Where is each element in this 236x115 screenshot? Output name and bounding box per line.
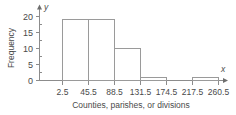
x-tick-label: 2.5 bbox=[57, 87, 69, 97]
histogram-bar bbox=[63, 20, 89, 81]
y-tick-label-15: 15 bbox=[23, 28, 33, 38]
x-tick-label: 45.5 bbox=[80, 87, 97, 97]
y-axis-ticks bbox=[36, 17, 40, 81]
x-axis-title: Counties, parishes, or divisions bbox=[72, 100, 190, 110]
x-axis-ticks bbox=[63, 81, 219, 85]
y-tick-label-0: 0 bbox=[28, 76, 33, 86]
histogram-bar bbox=[192, 78, 218, 81]
histogram-bar bbox=[140, 78, 166, 81]
y-tick-label-5: 5 bbox=[28, 60, 33, 70]
y-axis-tick-labels: 0 5 10 15 20 bbox=[23, 12, 33, 86]
y-tick-label-20: 20 bbox=[23, 12, 33, 22]
histogram-bars bbox=[63, 20, 219, 81]
y-axis-letter: y bbox=[43, 2, 49, 12]
x-axis-tick-labels: 2.5 45.5 88.5 131.5 174.5 217.5 260.5 bbox=[57, 87, 230, 97]
y-axis-arrow-icon bbox=[37, 5, 42, 10]
x-axis-arrow-icon bbox=[223, 78, 228, 83]
x-tick-label: 217.5 bbox=[182, 87, 204, 97]
x-tick-label: 174.5 bbox=[156, 87, 178, 97]
y-axis-title: Frequency bbox=[6, 27, 16, 68]
x-tick-label: 131.5 bbox=[130, 87, 152, 97]
histogram-chart: y x 0 5 10 15 20 Fr bbox=[0, 0, 236, 115]
x-axis-letter: x bbox=[220, 64, 226, 74]
histogram-plot-area: y x 0 5 10 15 20 Fr bbox=[0, 0, 236, 115]
histogram-bar bbox=[88, 20, 114, 81]
x-tick-label: 260.5 bbox=[208, 87, 230, 97]
y-tick-label-10: 10 bbox=[23, 44, 33, 54]
histogram-bar bbox=[114, 49, 140, 81]
x-tick-label: 88.5 bbox=[106, 87, 123, 97]
